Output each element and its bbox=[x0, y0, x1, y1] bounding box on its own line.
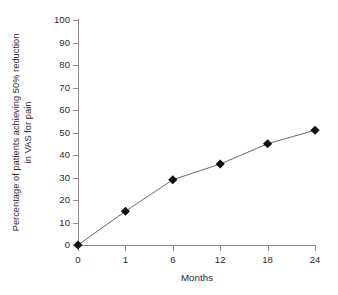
data-point-marker bbox=[73, 240, 82, 249]
x-axis-title: Months bbox=[78, 272, 316, 283]
data-point-marker bbox=[263, 139, 272, 148]
data-point-marker bbox=[310, 126, 319, 135]
series-line bbox=[78, 130, 315, 245]
chart-figure: Percentage of patients achieving 50% red… bbox=[0, 0, 338, 295]
data-point-marker bbox=[168, 175, 177, 184]
data-point-marker bbox=[216, 159, 225, 168]
data-point-marker bbox=[121, 207, 130, 216]
data-series bbox=[0, 0, 338, 295]
